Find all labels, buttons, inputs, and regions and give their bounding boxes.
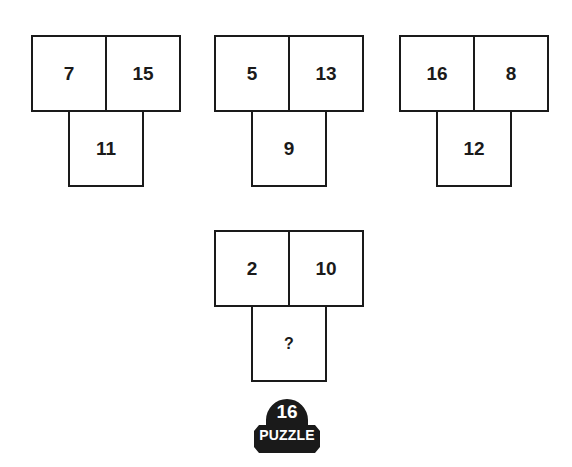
cell-value: 9 xyxy=(284,138,295,160)
cell-value: 11 xyxy=(96,138,116,160)
cell-top-left: 7 xyxy=(31,35,107,112)
cell-top-right: 13 xyxy=(288,35,364,112)
cell-value: 10 xyxy=(315,258,336,280)
cell-value: 8 xyxy=(506,63,517,85)
cell-top-left: 2 xyxy=(214,230,290,307)
cell-top-right: 15 xyxy=(105,35,181,112)
cell-top-left: 5 xyxy=(214,35,290,112)
cell-top-left: 16 xyxy=(399,35,475,112)
cell-value: 15 xyxy=(132,63,153,85)
question-mark: ? xyxy=(284,335,294,353)
badge-number: 16 xyxy=(254,401,320,423)
cell-value: 12 xyxy=(463,138,484,160)
cell-value: 2 xyxy=(247,258,258,280)
puzzle-number-badge: 16 PUZZLE xyxy=(254,398,320,454)
cell-bottom-unknown: ? xyxy=(251,305,327,382)
cell-bottom: 11 xyxy=(68,110,144,187)
cell-bottom: 9 xyxy=(251,110,327,187)
cell-top-right: 10 xyxy=(288,230,364,307)
cell-value: 16 xyxy=(426,63,447,85)
cell-top-right: 8 xyxy=(473,35,549,112)
badge-label: PUZZLE xyxy=(254,427,320,443)
cell-value: 13 xyxy=(315,63,336,85)
cell-value: 5 xyxy=(247,63,258,85)
cell-value: 7 xyxy=(64,63,75,85)
cell-bottom: 12 xyxy=(436,110,512,187)
